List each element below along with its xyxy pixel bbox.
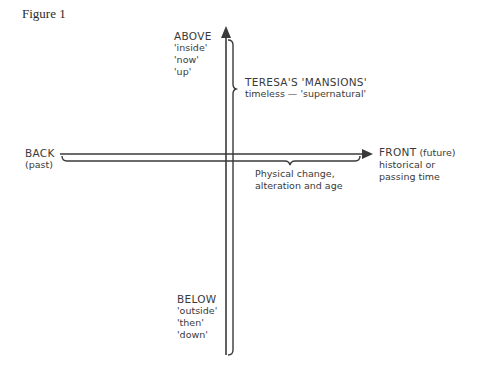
vertical-brace-label: TERESA'S 'MANSIONS' timeless — 'supernat… [245, 76, 367, 100]
above-line: 'now' [174, 54, 212, 66]
front-heading: FRONT [379, 146, 416, 158]
horizontal-brace [62, 156, 360, 165]
below-line: 'then' [177, 317, 217, 329]
diagram-canvas: Figure 1 ABOVE 'inside' 'now' 'up' TERES… [0, 0, 480, 368]
above-line: 'inside' [174, 42, 212, 54]
back-sub: (past) [25, 159, 55, 171]
above-label-group: ABOVE 'inside' 'now' 'up' [174, 30, 212, 78]
above-line: 'up' [174, 66, 212, 78]
front-line: passing time [379, 171, 455, 183]
front-label-group: FRONT (future) historical or passing tim… [379, 146, 455, 183]
horizontal-brace-label: Physical change, alteration and age [255, 168, 343, 192]
front-heading-suffix: (future) [419, 147, 455, 158]
back-heading: BACK [25, 147, 55, 159]
right-arrow-icon [362, 149, 373, 159]
up-arrow-icon [221, 26, 231, 38]
back-label-group: BACK (past) [25, 147, 55, 171]
vertical-brace [228, 40, 236, 355]
mansions-sub: timeless — 'supernatural' [245, 88, 367, 100]
below-label-group: BELOW 'outside' 'then' 'down' [177, 293, 217, 341]
axes-graphic [0, 0, 480, 368]
below-line: 'outside' [177, 305, 217, 317]
above-heading: ABOVE [174, 30, 212, 42]
below-heading: BELOW [177, 293, 217, 305]
below-line: 'down' [177, 329, 217, 341]
physical-line: alteration and age [255, 180, 343, 192]
mansions-title: TERESA'S 'MANSIONS' [245, 76, 367, 88]
physical-line: Physical change, [255, 168, 343, 180]
front-line: historical or [379, 159, 455, 171]
